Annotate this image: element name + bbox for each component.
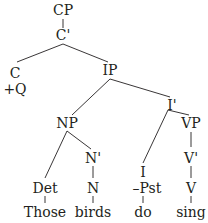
tree-nodes: CPC'C+QIPI'NPVPN'V'I–PstDetNVThosebirdsd… <box>3 2 205 220</box>
tree-node-nbar: N' <box>85 150 101 166</box>
tree-node-ibar: I' <box>167 97 176 113</box>
tree-edge-ip-ibar <box>110 79 170 97</box>
tree-node-v: V <box>185 180 197 196</box>
tree-node-sing: sing <box>176 204 206 220</box>
syntax-tree-diagram: CPC'C+QIPI'NPVPN'V'I–PstDetNVThosebirdsd… <box>0 0 208 223</box>
tree-node-cp: CP <box>53 2 73 18</box>
tree-edge-np-det <box>45 131 67 178</box>
tree-node-np: NP <box>56 115 78 131</box>
tree-node-det: Det <box>32 180 58 196</box>
syntax-tree-canvas: CPC'C+QIPI'NPVPN'V'I–PstDetNVThosebirdsd… <box>0 0 208 223</box>
tree-node-plusq: +Q <box>3 81 26 97</box>
tree-edge-np-nbar <box>67 131 91 149</box>
tree-edge-ibar-i <box>143 110 168 163</box>
tree-node-vp: VP <box>180 115 201 131</box>
tree-node-pst: –Pst <box>133 180 162 196</box>
tree-node-ip: IP <box>103 62 118 78</box>
tree-edge-cbar-c <box>17 44 63 62</box>
tree-node-n: N <box>87 180 99 196</box>
tree-edge-ip-np <box>72 79 110 115</box>
tree-node-do: do <box>134 204 151 220</box>
tree-edge-cbar-ip <box>63 44 108 62</box>
tree-node-vbar: V' <box>183 150 198 166</box>
tree-edges <box>17 19 191 203</box>
tree-node-those: Those <box>24 204 66 220</box>
tree-node-cbar: C' <box>56 27 71 43</box>
tree-node-i: I <box>140 164 146 180</box>
tree-node-birds: birds <box>75 204 111 220</box>
tree-node-c: C <box>10 65 21 81</box>
